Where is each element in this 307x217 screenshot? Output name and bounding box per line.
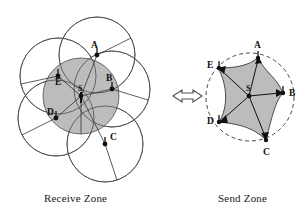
receive-node-label-c: C [110, 132, 117, 142]
receive-node-label-a: A [91, 40, 98, 50]
figure-svg: A B C D E S [0, 0, 307, 217]
send-node-label-d: D [207, 116, 214, 126]
radius-ray-d [22, 118, 56, 135]
receive-node-label-b: B [106, 73, 113, 83]
send-node-label-a: A [254, 40, 261, 50]
send-node-marker-e [217, 61, 221, 70]
send-zone-group: A B C D E S [206, 40, 296, 157]
send-node-label-e: E [207, 60, 213, 70]
equivalence-arrow-icon [173, 90, 202, 102]
receive-node-label-e: E [55, 77, 61, 87]
receive-node-label-d: D [47, 107, 54, 117]
send-node-label-s: S [246, 84, 251, 93]
send-node-marker-a [256, 51, 260, 60]
receive-node-label-s: S [78, 84, 83, 93]
send-node-label-c: C [263, 147, 270, 157]
send-node-marker-s [247, 94, 252, 99]
figure-container: A B C D E S [0, 0, 307, 217]
send-node-label-b: B [289, 88, 296, 98]
radius-ray-c [105, 144, 117, 180]
node-marker-c [103, 137, 108, 146]
send-zone-caption: Send Zone [218, 192, 267, 204]
radius-ray-a [97, 38, 131, 55]
receive-zone-caption: Receive Zone [44, 192, 107, 204]
receive-zone-group: A B C D E S [18, 17, 150, 182]
